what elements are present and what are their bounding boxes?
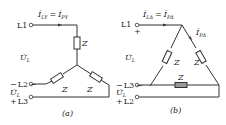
impedance-label-top-a: Z (81, 39, 88, 48)
voltage-label-a-upper: U̇L (20, 53, 31, 63)
terminal-l3-a (29, 95, 33, 99)
impedance-z-bottom-b (175, 83, 187, 88)
impedance-z-top-a (74, 37, 80, 49)
impedance-label-bottom-b: Z (177, 73, 184, 82)
polarity-plus-b-top: + (134, 27, 141, 36)
phase-current-label-b: İPΔ (195, 28, 207, 38)
caption-b: (b) (170, 106, 181, 115)
impedance-label-left-b: Z (173, 58, 180, 67)
label-l3-a: +L3 (10, 97, 28, 106)
label-l2-b: +L2 (116, 97, 134, 106)
impedance-z-left-a (51, 73, 64, 84)
impedance-label-left-a: Z (61, 85, 68, 94)
caption-a: (a) (62, 109, 73, 118)
impedance-z-left-b (162, 51, 172, 64)
voltage-label-b-upper: U̇L (125, 53, 136, 63)
arrow-icon (58, 24, 62, 27)
impedance-label-right-a: Z (86, 85, 93, 94)
panel-b-delta: L1 + İLΔ=İPΔ İPΔ U̇L Z Z Z −L3− U̇L +L2 … (116, 10, 219, 115)
current-label-b: İLΔ=İPΔ (142, 10, 174, 20)
arrow-icon (163, 24, 167, 27)
terminal-l1-a (29, 23, 33, 27)
label-l1-b: L1 (121, 20, 131, 29)
impedance-label-right-b: Z (193, 58, 200, 67)
current-label-a: İLY=İPY (37, 10, 69, 20)
terminal-l2-b (135, 95, 139, 99)
panel-a-star: L1 İLY=İPY Z Z Z U̇L −L2− U̇L +L3 (a) (10, 10, 109, 118)
impedance-z-right-a (90, 72, 103, 83)
circuit-diagram: L1 İLY=İPY Z Z Z U̇L −L2− U̇L +L3 (a) L (0, 0, 226, 125)
label-l1-a: L1 (17, 21, 27, 30)
